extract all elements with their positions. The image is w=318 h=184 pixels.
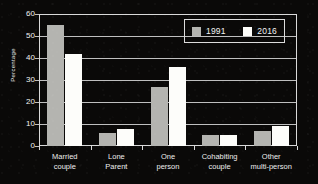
x-axis-tickmark: [142, 146, 143, 150]
y-axis-tick-label: 60: [13, 10, 35, 18]
bar-1991-other-multi-person: [254, 131, 271, 146]
y-axis-tick-label: 10: [13, 120, 35, 128]
legend-label: 1991: [206, 26, 226, 36]
y-axis-tick-label: 0: [13, 142, 35, 150]
bar-2016-married-couple: [65, 54, 82, 146]
bar-1991-lone-parent: [99, 133, 116, 146]
legend-item-1991: 1991: [192, 26, 226, 36]
x-axis-tickmark: [39, 146, 40, 150]
x-axis-tickmark: [91, 146, 92, 150]
x-axis-label-line: multi-person: [231, 162, 311, 172]
bar-2016-cohabiting-couple: [220, 135, 237, 146]
bar-chart: Percentage 0102030405060 MarriedcoupleLo…: [0, 0, 318, 184]
y-axis-title: Percentage: [10, 30, 16, 100]
bar-1991-married-couple: [47, 25, 64, 146]
legend: 19912016: [184, 19, 285, 43]
x-axis-tickmark: [245, 146, 246, 150]
white-swatch: [243, 27, 252, 36]
bar-2016-lone-parent: [117, 129, 134, 146]
x-axis-label-line: Other: [231, 152, 311, 162]
y-axis-tick-label: 30: [13, 76, 35, 84]
x-axis-tickmark: [194, 146, 195, 150]
y-axis-tick-label: 20: [13, 98, 35, 106]
bar-1991-one-person: [151, 87, 168, 146]
y-axis-tick-label: 50: [13, 32, 35, 40]
legend-label: 2016: [257, 26, 277, 36]
x-axis-label-other-multi-person: Othermulti-person: [231, 152, 311, 171]
legend-item-2016: 2016: [243, 26, 277, 36]
bar-2016-one-person: [169, 67, 186, 146]
y-axis-tick-label: 40: [13, 54, 35, 62]
bar-2016-other-multi-person: [272, 126, 289, 146]
bar-1991-cohabiting-couple: [202, 135, 219, 146]
x-axis-tickmark: [297, 146, 298, 150]
gray-swatch: [192, 27, 201, 36]
